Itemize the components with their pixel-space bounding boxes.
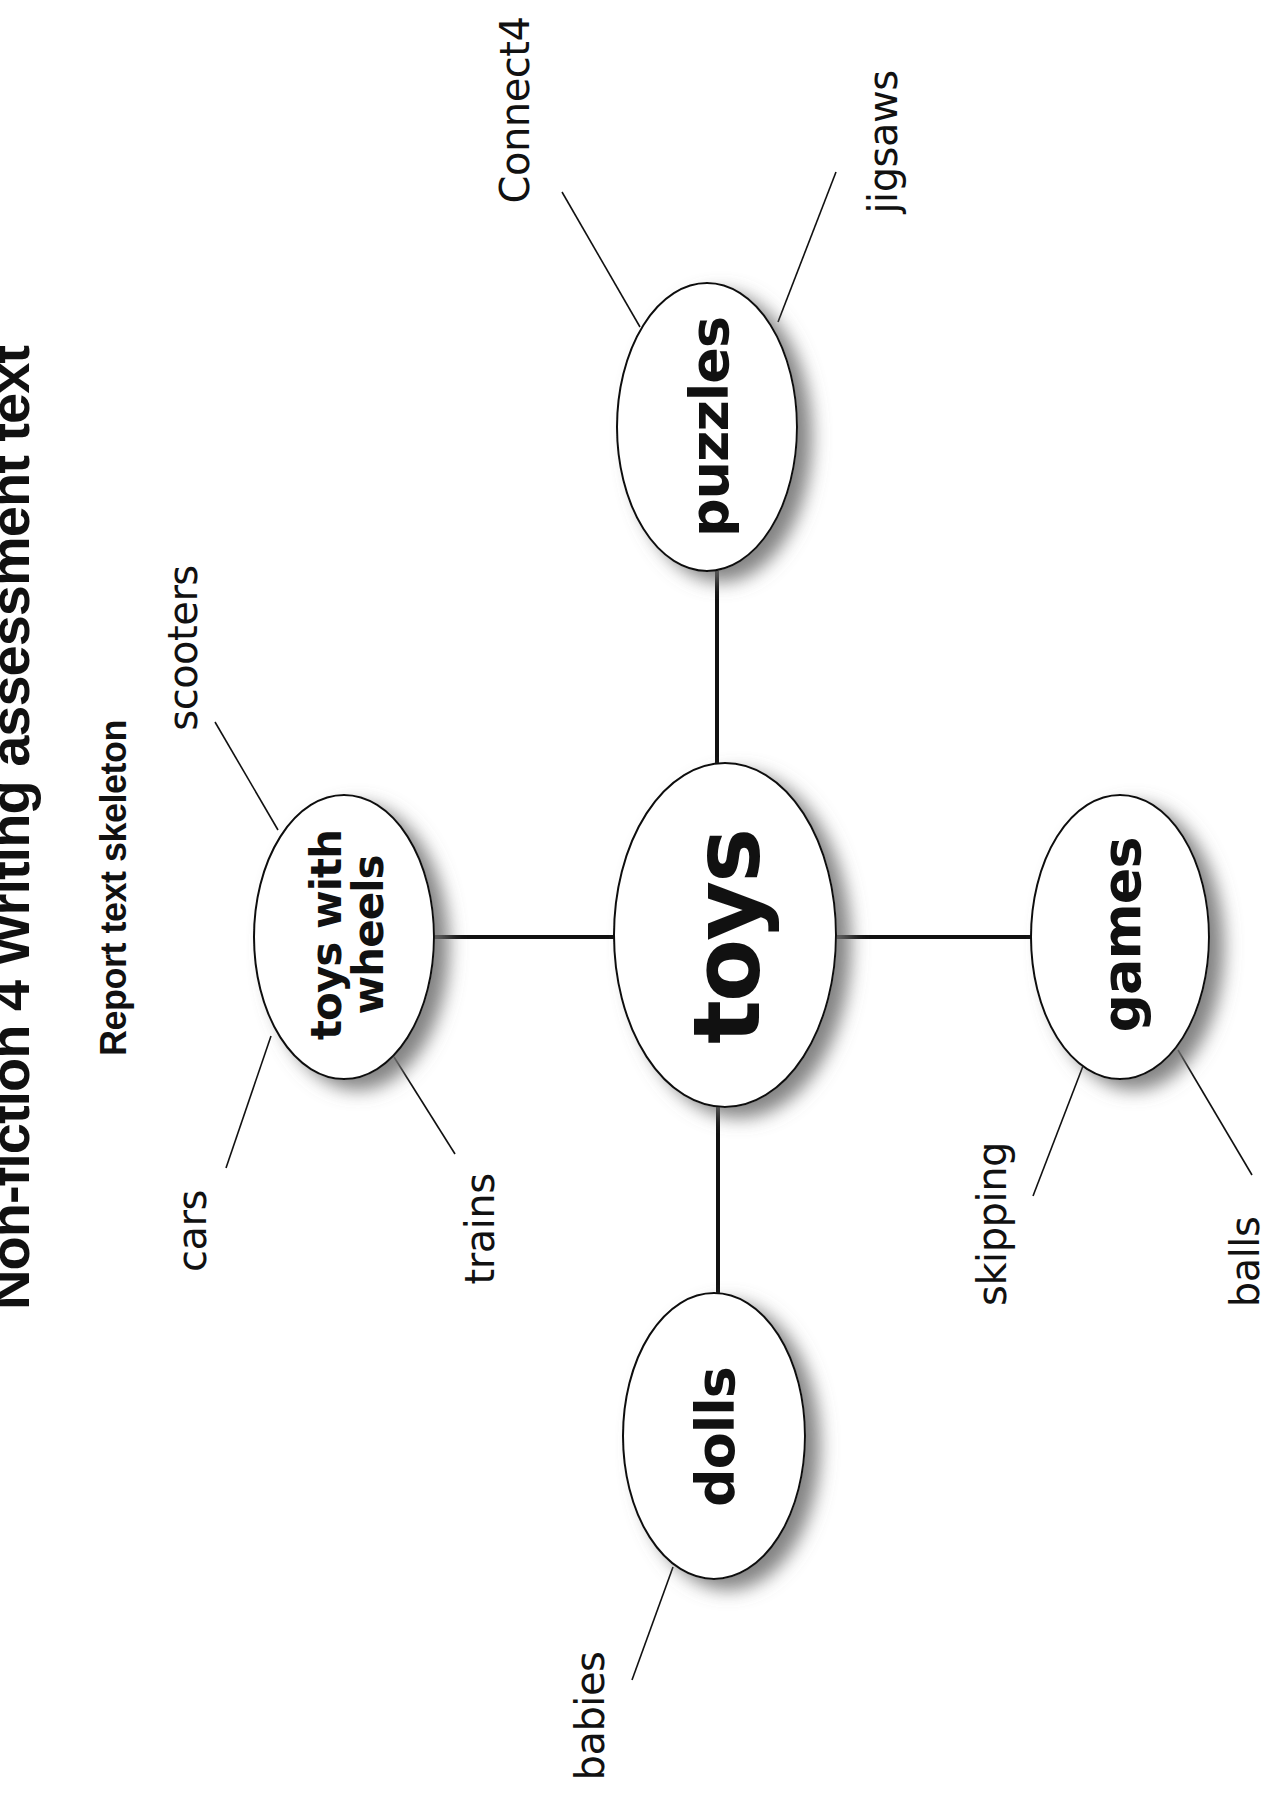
leaf-connect4: Connect4 <box>495 17 535 204</box>
spoke-skipping <box>1033 1066 1083 1196</box>
spoke-jigsaws <box>778 172 836 322</box>
leaf-balls: balls <box>1225 1217 1265 1307</box>
node-label-toys-with-wheels-line1: toys with <box>306 830 348 1040</box>
leaf-cars: cars <box>172 1190 212 1272</box>
page-title: Non-fiction 4 Writing assessment text <box>0 346 38 1310</box>
leaf-jigsaws: jigsaws <box>863 70 903 213</box>
spoke-cars <box>226 1036 271 1168</box>
leaf-scooters: scooters <box>163 565 203 730</box>
leaf-babies: babies <box>570 1652 610 1781</box>
spoke-trains <box>394 1057 455 1154</box>
spoke-scooters <box>215 722 278 830</box>
node-label-dolls: dolls <box>689 1367 743 1507</box>
leaf-trains: trains <box>460 1174 500 1285</box>
spoke-connect4 <box>562 192 640 327</box>
spoke-babies <box>632 1567 673 1680</box>
page-subtitle: Report text skeleton <box>96 720 132 1056</box>
node-label-puzzles: puzzles <box>683 317 737 537</box>
mind-map-canvas <box>0 0 1280 1796</box>
node-label-games: games <box>1095 837 1149 1032</box>
leaf-skipping: skipping <box>972 1142 1012 1306</box>
node-label-toys-with-wheels: toys with wheels <box>306 830 390 1040</box>
spoke-balls <box>1178 1050 1252 1175</box>
node-label-toys: toys <box>682 830 774 1044</box>
node-label-toys-with-wheels-line2: wheels <box>348 830 390 1040</box>
